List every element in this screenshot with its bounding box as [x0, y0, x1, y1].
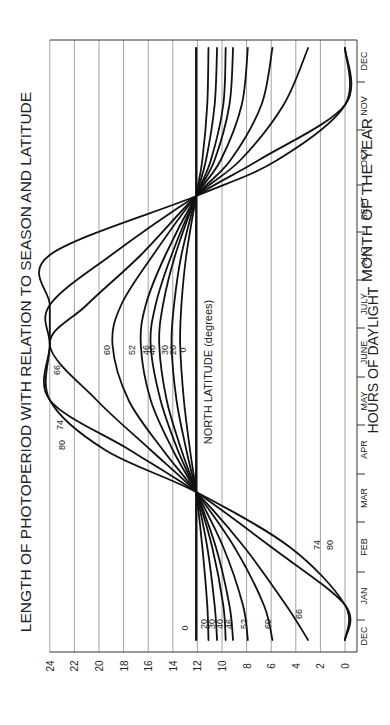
latitude-curves: [39, 48, 351, 640]
curve-lat-40: [159, 48, 226, 640]
photoperiod-chart: 02030404652606674800203040465260667480 0…: [0, 0, 390, 725]
y-tick-label: 20: [94, 660, 105, 672]
y-tick-label: 12: [192, 660, 203, 672]
y-tick-label: 24: [45, 660, 56, 672]
month-label: FEB: [359, 538, 369, 556]
month-label: APR: [359, 440, 369, 459]
label-dec-60: 60: [263, 619, 273, 629]
y-tick-label: 6: [266, 663, 277, 669]
label-dec-52: 52: [239, 619, 249, 629]
y-tick-label: 16: [143, 660, 154, 672]
curve-lat-46: [150, 48, 233, 640]
gridlines: [50, 40, 345, 652]
label-dec-66: 66: [294, 609, 304, 619]
label-jun-66: 66: [52, 365, 62, 375]
curve-lat-66: [50, 48, 308, 640]
y-axis-title: HOURS OF DAYLIGHT: [365, 286, 381, 433]
label-jun-52: 52: [127, 345, 137, 355]
curve-lat-52: [141, 48, 248, 640]
label-dec-46: 46: [224, 619, 234, 629]
y-tick-label: 10: [217, 660, 228, 672]
label-dec-80: 80: [325, 540, 335, 550]
y-tick-label: 14: [168, 660, 179, 672]
latitude-annotation: NORTH LATITUDE (degrees): [202, 300, 214, 444]
label-jun-60: 60: [102, 345, 112, 355]
curve-lat-80: [39, 48, 350, 640]
label-dec-0: 0: [180, 625, 190, 630]
label-jun-46: 46: [141, 345, 151, 355]
y-tick-label: 22: [69, 660, 80, 672]
y-tick-label: 8: [242, 663, 253, 669]
label-jun-30: 30: [160, 345, 170, 355]
label-jun-74: 74: [55, 420, 65, 430]
label-dec-74: 74: [312, 540, 322, 550]
month-label: DEC: [359, 51, 369, 71]
label-jun-0: 0: [178, 347, 188, 352]
y-tick-label: 4: [291, 663, 302, 669]
label-jun-80: 80: [57, 440, 67, 450]
y-tick-label: 0: [340, 663, 351, 669]
month-label: NOV: [359, 96, 369, 116]
y-tick-label: 2: [315, 663, 326, 669]
month-label: JAN: [359, 587, 369, 604]
x-axis-title: MONTH OF THE YEAR: [358, 118, 375, 282]
month-label: DEC: [359, 626, 369, 646]
chart-title: LENGTH OF PHOTOPERIOD WITH RELATION TO S…: [17, 92, 34, 632]
y-tick-label: 18: [119, 660, 130, 672]
month-label: MAR: [359, 488, 369, 509]
